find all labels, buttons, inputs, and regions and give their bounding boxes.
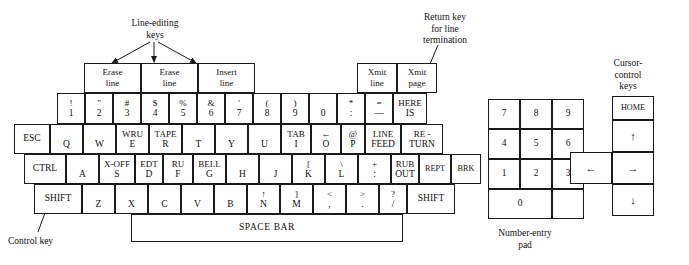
key-p-lower: P [350, 139, 355, 149]
key-6-lower: 6 [209, 108, 214, 118]
key-c-lower: C [161, 199, 167, 209]
key-e-lower: E [130, 139, 136, 149]
key-4-upper: $ [153, 99, 158, 108]
key-8[interactable]: ( 8 [253, 93, 281, 124]
key-rept[interactable]: REPT [419, 154, 451, 184]
cursor-key-home[interactable]: HOME [612, 96, 654, 120]
key-f[interactable]: RU F [163, 154, 193, 184]
key-w[interactable]: W [83, 124, 116, 154]
numpad-key-blank[interactable] [552, 189, 584, 219]
left-arrow-icon: ← [322, 130, 331, 139]
key-1-lower: 1 [69, 108, 74, 118]
key-semicolon-upper: + [372, 160, 377, 169]
key-s[interactable]: X-OFF S [99, 154, 135, 184]
key-d[interactable]: EDT D [135, 154, 163, 184]
key-5[interactable]: % 5 [169, 93, 197, 124]
key-return-l2: TURN [409, 139, 435, 149]
cursor-key-up[interactable]: ↑ [612, 120, 654, 152]
key-p[interactable]: @ P [341, 124, 365, 154]
key-a[interactable]: A [66, 154, 99, 184]
key-o[interactable]: ← O [311, 124, 341, 154]
key-rept-label: REPT [425, 165, 445, 173]
key-v[interactable]: V [181, 184, 214, 214]
key-b[interactable]: B [214, 184, 247, 214]
key-m-lower: M [292, 199, 300, 209]
number-entry-pad-label: Number-entry pad [470, 228, 580, 251]
key-1[interactable]: ! 1 [57, 93, 85, 124]
key-brk[interactable]: BRK [451, 154, 481, 184]
key-return[interactable]: RE - TURN [401, 124, 443, 154]
numpad-key-7[interactable]: 7 [488, 99, 520, 129]
key-0[interactable]: 0 [309, 93, 337, 124]
key-q[interactable]: Q [50, 124, 83, 154]
key-9[interactable]: ) 9 [281, 93, 309, 124]
numpad-key-4[interactable]: 4 [488, 129, 520, 159]
cursor-key-down[interactable]: ↓ [612, 184, 654, 216]
callout-xmit-line-l1: Xmit [368, 67, 387, 78]
numpad-key-5[interactable]: 5 [520, 129, 552, 159]
numpad-key-0[interactable]: 0 [488, 189, 552, 219]
key-ctrl[interactable]: CTRL [24, 154, 66, 184]
key-line-feed[interactable]: LINE FEED [365, 124, 401, 154]
key-3[interactable]: # 3 [113, 93, 141, 124]
key-i[interactable]: TAB I [281, 124, 311, 154]
key-rub-out[interactable]: RUB OUT [391, 154, 419, 184]
key-colon-star[interactable]: * : [337, 93, 365, 124]
key-comma[interactable]: < , [313, 184, 346, 214]
key-r[interactable]: TAPE R [149, 124, 182, 154]
key-l[interactable]: \ L [325, 154, 358, 184]
key-shift-left[interactable]: SHIFT [34, 184, 82, 214]
key-slash[interactable]: ? / [379, 184, 407, 214]
key-7[interactable]: ' 7 [225, 93, 253, 124]
key-6[interactable]: & 6 [197, 93, 225, 124]
key-g[interactable]: BELL G [193, 154, 226, 184]
key-here-is[interactable]: HERE IS [393, 93, 427, 124]
cursor-key-right[interactable]: → [612, 152, 654, 184]
cursor-key-left[interactable]: ← [570, 152, 612, 184]
key-n[interactable]: ↑ N [247, 184, 280, 214]
key-esc[interactable]: ESC [14, 124, 50, 154]
key-slash-lower: / [392, 199, 395, 209]
key-d-lower: D [146, 169, 153, 179]
key-y[interactable]: Y [215, 124, 248, 154]
key-u[interactable]: U [248, 124, 281, 154]
key-semicolon[interactable]: + : [358, 154, 391, 184]
key-s-lower: S [114, 169, 119, 179]
key-space-bar[interactable]: SPACE BAR [131, 214, 403, 242]
callout-xmit-page: Xmit page [397, 63, 437, 93]
key-v-lower: V [194, 199, 201, 209]
numpad-key-1[interactable]: 1 [488, 159, 520, 189]
key-rub-out-l1: RUB [396, 160, 415, 169]
callout-xmit-line-l2: line [370, 78, 384, 89]
key-shift-right[interactable]: SHIFT [407, 184, 455, 214]
key-t[interactable]: T [182, 124, 215, 154]
numpad-key-9[interactable]: 9 [552, 99, 584, 129]
key-x[interactable]: X [115, 184, 148, 214]
key-4[interactable]: $ 4 [141, 93, 169, 124]
numpad-key-8[interactable]: 8 [520, 99, 552, 129]
key-7-lower: 7 [237, 108, 242, 118]
line-editing-label-l2: keys [110, 30, 200, 42]
key-h[interactable]: H [226, 154, 259, 184]
key-4-lower: 4 [153, 108, 158, 118]
control-key-label-text: Control key [8, 236, 98, 248]
left-arrow-icon: ← [586, 163, 597, 174]
key-c[interactable]: C [148, 184, 181, 214]
key-comma-upper: < [327, 190, 332, 199]
numpad-key-2[interactable]: 2 [520, 159, 552, 189]
line-editing-keys-label: Line-editing keys [110, 18, 200, 41]
key-0-lower: 0 [321, 108, 326, 118]
numpad-key-9-label: 9 [566, 109, 571, 119]
key-equals-underscore[interactable]: = — [365, 93, 393, 124]
right-arrow-icon: → [628, 163, 639, 174]
key-k-upper: [ [307, 160, 310, 169]
key-j[interactable]: J [259, 154, 292, 184]
key-3-lower: 3 [125, 108, 130, 118]
key-e[interactable]: WRU E [116, 124, 149, 154]
key-z[interactable]: Z [82, 184, 115, 214]
return-key-label-l2: for line [400, 24, 490, 36]
key-2[interactable]: " 2 [85, 93, 113, 124]
key-period[interactable]: > . [346, 184, 379, 214]
key-m[interactable]: ] M [280, 184, 313, 214]
key-k[interactable]: [ K [292, 154, 325, 184]
